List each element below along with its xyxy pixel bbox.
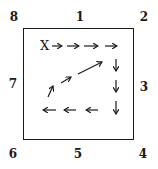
path-arrows bbox=[0, 0, 158, 169]
arrow-up-right-long-icon bbox=[78, 62, 102, 74]
arrow-up-icon bbox=[48, 86, 53, 97]
arrow-up-right-icon bbox=[61, 77, 71, 83]
